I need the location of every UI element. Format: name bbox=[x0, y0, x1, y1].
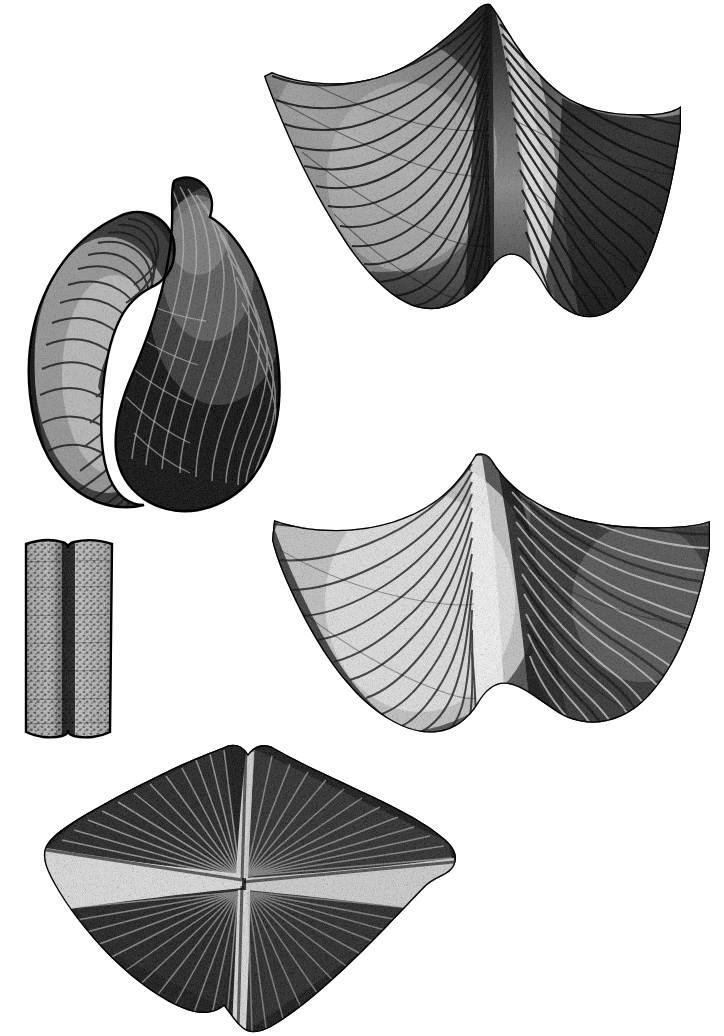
lateral-valves-drawing bbox=[22, 175, 306, 513]
anterior-rhomboid-drawing bbox=[40, 740, 460, 1036]
upper-shell-body bbox=[262, 2, 682, 336]
surface-fragment-drawing bbox=[12, 536, 124, 744]
figure-anterior-rhomboid-shell bbox=[40, 740, 460, 1036]
lower-winged-shell-drawing bbox=[270, 452, 712, 756]
figure-lateral-paired-valves bbox=[22, 175, 306, 513]
figure-surface-magnified-fragment bbox=[12, 536, 124, 744]
figure-lower-winged-shell bbox=[270, 452, 712, 756]
fragment-body bbox=[12, 536, 124, 744]
fossil-plate: Fossil brachiopod lithographic plate eng… bbox=[0, 0, 724, 1036]
lower-shell-body bbox=[260, 452, 712, 756]
figure-upper-winged-shell bbox=[262, 2, 682, 336]
upper-winged-shell-drawing bbox=[262, 2, 682, 336]
anterior-shell-body bbox=[40, 740, 460, 1036]
